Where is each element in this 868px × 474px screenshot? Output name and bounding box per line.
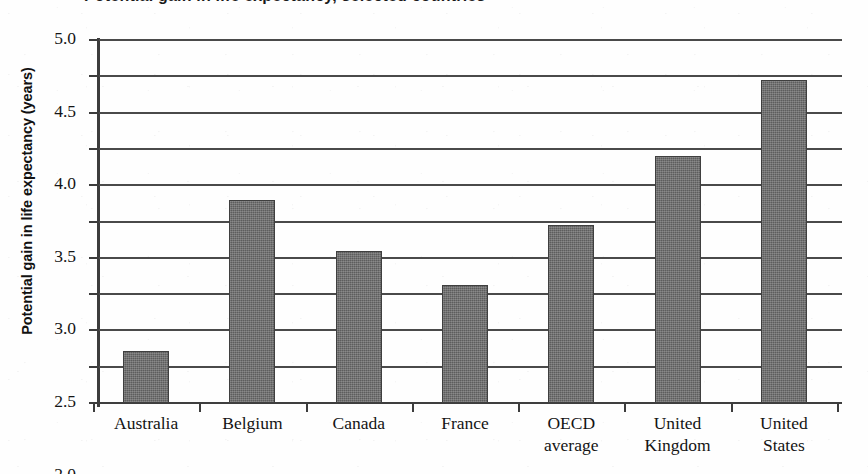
y-tick-label: 2.5 xyxy=(54,391,76,412)
x-axis-tick xyxy=(624,403,626,412)
bar-oecd-average xyxy=(548,225,594,403)
x-axis-tick xyxy=(93,403,95,412)
plot-area: 0.00.51.01.52.02.53.03.54.04.55.0 xyxy=(98,40,842,403)
x-axis-tick xyxy=(306,403,308,412)
gridline xyxy=(98,257,842,259)
bar-united-states xyxy=(761,80,807,403)
x-axis-tick xyxy=(199,403,201,412)
gridline xyxy=(98,221,842,223)
y-tick-label: 4.0 xyxy=(54,173,76,194)
chart-title-cropped: Potential gain in life expectancy, selec… xyxy=(0,0,868,12)
x-axis-tick xyxy=(412,403,414,412)
bar-france xyxy=(442,285,488,403)
bar-australia xyxy=(123,351,169,403)
y-axis-tick: 5.0 xyxy=(89,39,99,41)
y-tick-label: 2.0 xyxy=(54,464,76,474)
y-axis-tick: 4.0 xyxy=(89,112,99,114)
gridline xyxy=(98,148,842,150)
x-axis-tick xyxy=(837,403,839,412)
y-axis-tick: 1.0 xyxy=(89,329,99,331)
y-axis-tick: 3.5 xyxy=(89,148,99,150)
y-tick-label: 4.5 xyxy=(54,101,76,122)
y-tick-label: 3.5 xyxy=(54,246,76,267)
gridline xyxy=(98,184,842,186)
x-axis-labels: AustraliaBelgiumCanadaFranceOECDaverageU… xyxy=(98,412,842,468)
chart-title-text: Potential gain in life expectancy, selec… xyxy=(84,0,784,5)
gridline xyxy=(98,112,842,114)
gridline xyxy=(98,75,842,77)
y-axis-tick: 2.5 xyxy=(89,221,99,223)
y-tick-label: 5.0 xyxy=(54,28,76,49)
x-label-line: United xyxy=(719,412,849,434)
bar-canada xyxy=(336,251,382,403)
x-label-line: States xyxy=(719,434,849,456)
y-axis-title: Potential gain in life expectancy (years… xyxy=(19,31,35,371)
bar-united-kingdom xyxy=(655,156,701,403)
x-label-united-states: UnitedStates xyxy=(719,412,849,456)
y-axis-tick: 4.5 xyxy=(89,75,99,77)
y-axis-line xyxy=(97,38,100,407)
y-axis-tick: 0.5 xyxy=(89,366,99,368)
gridline xyxy=(98,39,842,41)
x-axis-tick xyxy=(518,403,520,412)
y-axis-tick: 1.5 xyxy=(89,293,99,295)
y-axis-tick: 3.0 xyxy=(89,184,99,186)
x-axis-tick xyxy=(731,403,733,412)
y-axis-tick: 2.0 xyxy=(89,257,99,259)
chart-figure: Potential gain in life expectancy, selec… xyxy=(0,0,868,474)
y-tick-label: 3.0 xyxy=(54,318,76,339)
bar-belgium xyxy=(229,200,275,403)
